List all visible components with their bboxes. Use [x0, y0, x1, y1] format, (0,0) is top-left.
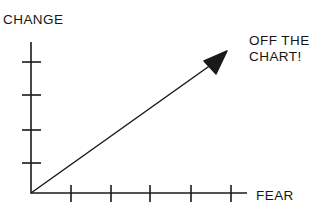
- y-axis-title: CHANGE: [3, 13, 63, 27]
- x-axis-group: [31, 185, 247, 202]
- chart-annotation: OFF THE CHART!: [249, 33, 310, 65]
- chart-canvas: CHANGE FEAR OFF THE CHART!: [0, 0, 319, 219]
- up-right-arrow-icon: [31, 51, 227, 193]
- y-axis-group: [22, 42, 41, 193]
- arrowhead-triangle-icon: [204, 51, 227, 74]
- trend-line: [31, 62, 215, 193]
- x-axis-title: FEAR: [256, 189, 294, 203]
- annotation-line-1: OFF THE: [249, 33, 310, 49]
- annotation-line-2: CHART!: [249, 49, 310, 65]
